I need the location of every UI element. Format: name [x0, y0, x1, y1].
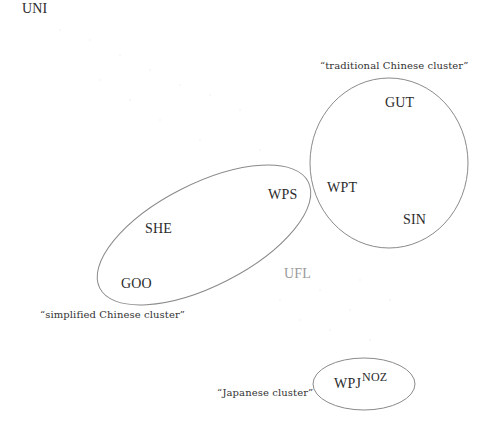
cluster-diagram: UNI “traditional Chinese cluster” GUT WP… [0, 0, 487, 444]
node-wpj: WPJNOZ [334, 377, 387, 391]
simplified-cluster-outline [77, 136, 332, 333]
traditional-cluster-caption: “traditional Chinese cluster” [320, 61, 468, 71]
node-sin: SIN [403, 213, 426, 227]
node-ufl: UFL [284, 267, 311, 281]
japanese-cluster-caption: “Japanese cluster” [217, 388, 313, 398]
node-noz: NOZ [362, 370, 387, 384]
node-wpj-label: WPJ [334, 376, 361, 391]
node-wpt: WPT [327, 181, 357, 195]
node-uni: UNI [22, 2, 47, 16]
node-wps: WPS [268, 188, 297, 202]
node-goo: GOO [121, 277, 152, 291]
node-gut: GUT [385, 96, 414, 110]
simplified-cluster-caption: “simplified Chinese cluster” [40, 310, 185, 320]
node-she: SHE [145, 222, 172, 236]
